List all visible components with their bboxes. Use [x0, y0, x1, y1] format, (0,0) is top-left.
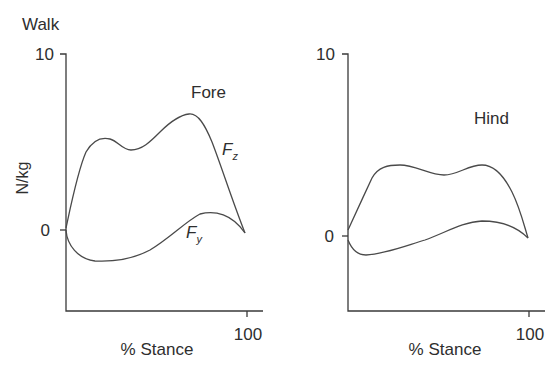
hind-x-axis-label: % Stance — [409, 340, 482, 359]
fore-axes — [60, 54, 263, 311]
walk-force-chart: Walk N/kg 10 0 100 % Stance Fore Fz Fy 1… — [0, 0, 559, 377]
fore-fz-label: Fz — [222, 140, 238, 162]
fore-fy-curve — [66, 213, 245, 262]
hind-panel-label: Hind — [474, 109, 509, 128]
fore-y-tick-label-0: 0 — [41, 221, 50, 240]
fore-x-axis-label: % Stance — [121, 340, 194, 359]
y-axis-label: N/kg — [14, 162, 31, 195]
hind-y-tick-label-10: 10 — [316, 45, 335, 64]
fore-x-tick-label-100: 100 — [234, 325, 262, 344]
hind-x-tick-label-100: 100 — [516, 325, 544, 344]
hind-fz-curve — [348, 165, 528, 238]
hind-fy-curve — [348, 221, 528, 255]
fore-panel-label: Fore — [191, 83, 226, 102]
panel-hind: 10 0 100 % Stance Hind — [316, 45, 545, 359]
hind-y-tick-label-0: 0 — [325, 227, 334, 246]
panel-fore: N/kg 10 0 100 % Stance Fore Fz Fy — [14, 45, 263, 359]
fore-fz-curve — [66, 114, 245, 233]
chart-title: Walk — [22, 15, 60, 34]
hind-axes — [342, 54, 545, 311]
fore-fy-label: Fy — [186, 223, 203, 245]
fore-y-tick-label-10: 10 — [35, 45, 54, 64]
